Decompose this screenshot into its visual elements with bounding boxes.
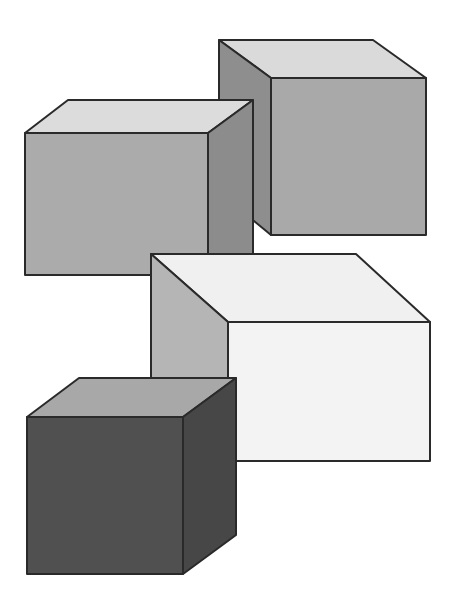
cubes-illustration xyxy=(0,0,456,608)
top-left-cube xyxy=(25,100,253,275)
middle-cube-front-face xyxy=(228,322,430,461)
bottom-dark-cube xyxy=(27,378,236,574)
dark-cube-front-face xyxy=(27,417,183,574)
top-right-cube-front-face xyxy=(271,78,426,235)
